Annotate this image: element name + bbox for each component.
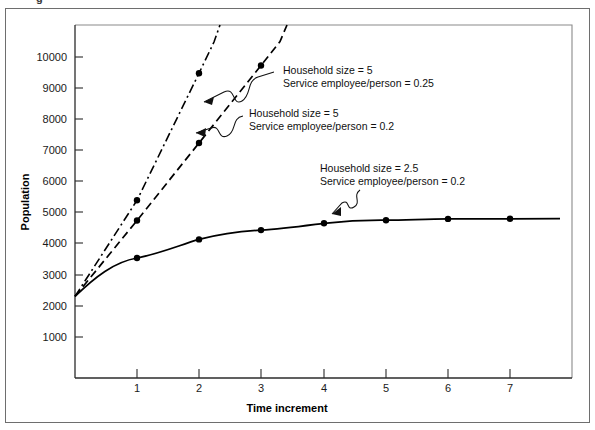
annotation-dashed-line2: Service employee/person = 0.2 — [249, 120, 394, 132]
x-tick-label: 2 — [196, 382, 202, 394]
y-tick-label: 7000 — [43, 144, 67, 156]
annotation-leader-dashdot — [204, 72, 274, 102]
annotation-solid-line1: Household size = 2.5 — [320, 162, 419, 174]
y-tick-label: 9000 — [43, 82, 67, 94]
x-tick-label: 4 — [321, 382, 327, 394]
annotation-dashdot-line1: Household size = 5 — [283, 64, 373, 76]
x-tick-label: 3 — [258, 382, 264, 394]
y-tick-label: 5000 — [43, 206, 67, 218]
series-solid-hh25-se02 — [75, 216, 560, 297]
data-point — [196, 236, 202, 242]
x-axis-ticks — [137, 369, 510, 378]
data-point — [445, 216, 451, 222]
series-line-solid — [75, 219, 560, 297]
y-tick-label: 6000 — [43, 175, 67, 187]
annotation-solid-line2: Service employee/person = 0.2 — [320, 175, 465, 187]
data-point — [321, 220, 327, 226]
data-point — [383, 217, 389, 223]
annotation-dashed-line1: Household size = 5 — [249, 107, 339, 119]
x-tick-label: 7 — [507, 382, 513, 394]
data-point — [258, 227, 264, 233]
y-tick-label: 10000 — [36, 51, 67, 63]
annotation-leader-solid — [332, 190, 360, 214]
x-axis: 1 2 3 4 5 6 7 Time increment — [75, 369, 572, 414]
data-point — [134, 197, 140, 203]
series-line-dashed — [75, 25, 287, 296]
chart-canvas: 10000 9000 8000 7000 6000 5000 4000 3000… — [0, 0, 595, 430]
data-point — [258, 62, 264, 68]
y-axis: 10000 9000 8000 7000 6000 5000 4000 3000… — [19, 25, 83, 378]
y-tick-label: 8000 — [43, 113, 67, 125]
y-tick-label: 1000 — [43, 331, 67, 343]
y-axis-title: Population — [19, 173, 31, 230]
annotation-dashdot-line2: Service employee/person = 0.25 — [283, 77, 434, 89]
annotation-arrowhead-dashed — [196, 128, 206, 137]
data-point — [134, 217, 140, 223]
data-point — [196, 140, 202, 146]
x-tick-label: 1 — [134, 382, 140, 394]
y-axis-tick-labels: 10000 9000 8000 7000 6000 5000 4000 3000… — [36, 51, 67, 343]
x-tick-label: 6 — [445, 382, 451, 394]
y-tick-label: 2000 — [43, 300, 67, 312]
x-axis-tick-labels: 1 2 3 4 5 6 7 — [134, 382, 513, 394]
annotation-solid: Household size = 2.5 Service employee/pe… — [320, 162, 465, 216]
x-axis-title: Time increment — [246, 402, 327, 414]
data-point — [507, 216, 513, 222]
y-tick-label: 3000 — [43, 269, 67, 281]
x-tick-label: 5 — [383, 382, 389, 394]
figure-root: g 10000 9000 800 — [0, 0, 595, 430]
annotation-dashdot: Household size = 5 Service employee/pers… — [204, 64, 434, 105]
data-point — [196, 70, 202, 76]
series-dashed-hh5-se02 — [75, 25, 287, 296]
y-tick-label: 4000 — [43, 237, 67, 249]
data-point — [134, 255, 140, 261]
annotation-dashed: Household size = 5 Service employee/pers… — [196, 107, 394, 137]
